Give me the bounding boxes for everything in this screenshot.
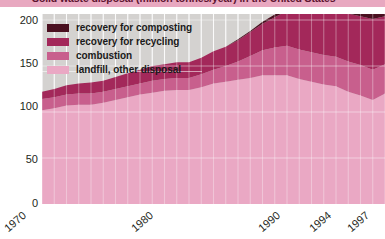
y-tick-50: 50 (4, 153, 38, 165)
legend-item-combustion: combustion (47, 49, 212, 63)
legend-swatch-recycling (47, 38, 69, 46)
y-tick-150: 150 (4, 57, 38, 69)
y-tick-200: 200 (4, 14, 38, 26)
legend-label-landfill: landfill, other disposal (76, 64, 181, 75)
legend-label-combustion: combustion (76, 50, 132, 61)
chart-figure: Solid waste disposal (million tonnes/yea… (0, 0, 385, 239)
legend-item-composting: recovery for composting (47, 21, 212, 35)
x-tick-1994: 1994 (307, 209, 333, 234)
chart-legend: recovery for composting recovery for rec… (47, 21, 212, 77)
chart-title: Solid waste disposal (million tonnes/yea… (32, 0, 336, 4)
legend-label-composting: recovery for composting (76, 22, 192, 33)
x-tick-1980: 1980 (129, 209, 155, 234)
x-tick-1970: 1970 (2, 209, 28, 234)
legend-swatch-composting (47, 24, 69, 32)
legend-item-landfill: landfill, other disposal (47, 63, 212, 77)
legend-swatch-landfill (47, 66, 69, 74)
legend-item-recycling: recovery for recycling (47, 35, 212, 49)
chart-title-banner: Solid waste disposal (million tonnes/yea… (0, 0, 385, 7)
y-tick-100: 100 (4, 100, 38, 112)
legend-label-recycling: recovery for recycling (76, 36, 179, 47)
x-axis: 1970 1980 1990 1994 1997 (0, 204, 385, 239)
legend-swatch-combustion (47, 52, 69, 60)
x-tick-1990: 1990 (256, 209, 282, 234)
x-tick-1997: 1997 (345, 209, 371, 234)
